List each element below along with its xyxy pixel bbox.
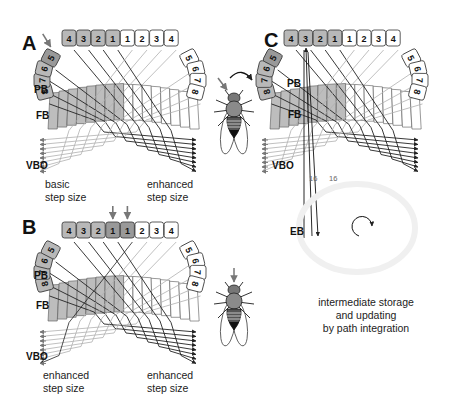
svg-text:2: 2 bbox=[96, 226, 101, 236]
pb-cell: 2 bbox=[91, 222, 105, 238]
panel-a: 8765432112345678 bbox=[34, 30, 254, 172]
pb-cell: 2 bbox=[135, 30, 149, 46]
pb-cell: 4 bbox=[164, 30, 178, 46]
pb-cell: 3 bbox=[150, 222, 164, 238]
pb-cell: 4 bbox=[62, 222, 76, 238]
pb-cell: 3 bbox=[77, 222, 91, 238]
pb-cell: 3 bbox=[299, 30, 313, 46]
pb-cell: 1 bbox=[120, 30, 134, 46]
stimulus-arrow bbox=[43, 34, 51, 47]
pb-cell: 1 bbox=[328, 30, 342, 46]
svg-text:1: 1 bbox=[332, 34, 337, 44]
svg-text:7: 7 bbox=[37, 78, 47, 83]
svg-text:2: 2 bbox=[318, 34, 323, 44]
svg-text:1: 1 bbox=[110, 226, 115, 236]
svg-text:3: 3 bbox=[154, 226, 159, 236]
panel-b: 8765432112345678 bbox=[34, 206, 254, 364]
fly-illustration bbox=[214, 268, 254, 347]
pb-cell: 1 bbox=[120, 222, 134, 238]
svg-text:4: 4 bbox=[66, 226, 71, 236]
svg-text:4: 4 bbox=[391, 34, 396, 44]
svg-text:2: 2 bbox=[96, 34, 101, 44]
svg-text:4: 4 bbox=[66, 34, 71, 44]
pb-cell: 2 bbox=[91, 30, 105, 46]
panel-c: 8765432112345678 bbox=[256, 30, 428, 272]
pb-cell: 1 bbox=[106, 30, 120, 46]
pb-cell: 2 bbox=[357, 30, 371, 46]
svg-text:7: 7 bbox=[192, 78, 202, 83]
ellipsoid-body bbox=[299, 184, 415, 272]
circular-update-icon bbox=[352, 216, 372, 236]
svg-text:3: 3 bbox=[81, 226, 86, 236]
svg-text:2: 2 bbox=[361, 34, 366, 44]
pb-cell: 2 bbox=[135, 222, 149, 238]
pb-cell: 4 bbox=[386, 30, 400, 46]
svg-text:4: 4 bbox=[288, 34, 293, 44]
svg-text:4: 4 bbox=[169, 34, 174, 44]
svg-text:1: 1 bbox=[125, 226, 130, 236]
svg-text:1: 1 bbox=[125, 34, 130, 44]
svg-text:3: 3 bbox=[376, 34, 381, 44]
pb-cell: 3 bbox=[150, 30, 164, 46]
svg-text:3: 3 bbox=[154, 34, 159, 44]
pb-cell: 4 bbox=[164, 222, 178, 238]
pb-cell: 3 bbox=[77, 30, 91, 46]
pb-cell: 4 bbox=[62, 30, 76, 46]
pb-cell: 2 bbox=[313, 30, 327, 46]
pb-cell: 3 bbox=[372, 30, 386, 46]
svg-text:7: 7 bbox=[37, 270, 47, 275]
svg-text:4: 4 bbox=[169, 226, 174, 236]
svg-text:2: 2 bbox=[139, 226, 144, 236]
fly-illustration bbox=[214, 72, 254, 154]
svg-text:3: 3 bbox=[81, 34, 86, 44]
svg-text:7: 7 bbox=[414, 78, 424, 83]
path-integration-diagram: 8765432112345678876543211234567887654321… bbox=[0, 0, 466, 414]
svg-text:7: 7 bbox=[259, 78, 269, 83]
pb-cell: 1 bbox=[106, 222, 120, 238]
svg-text:2: 2 bbox=[139, 34, 144, 44]
svg-text:7: 7 bbox=[192, 270, 202, 275]
svg-text:1: 1 bbox=[110, 34, 115, 44]
svg-text:3: 3 bbox=[303, 34, 308, 44]
svg-text:1: 1 bbox=[347, 34, 352, 44]
pb-cell: 1 bbox=[342, 30, 356, 46]
pb-cell: 4 bbox=[284, 30, 298, 46]
